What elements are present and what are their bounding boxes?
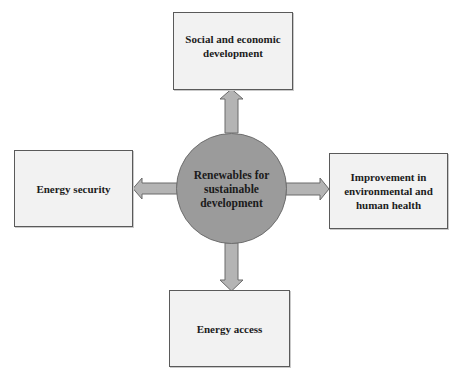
node-label-line: environmental and bbox=[344, 184, 433, 198]
node-energy-security: Energy security bbox=[14, 150, 133, 227]
hub-label: Renewables for sustainable development bbox=[194, 168, 270, 210]
node-label-line: Improvement in bbox=[344, 170, 433, 184]
node-label: Improvement in environmental and human h… bbox=[344, 170, 433, 212]
node-label-line: human health bbox=[344, 198, 433, 212]
arrow-up-icon bbox=[220, 89, 243, 133]
arrow-down-icon bbox=[220, 243, 243, 291]
diagram-canvas: Social and economic development Energy s… bbox=[0, 0, 461, 380]
arrow-left-icon bbox=[133, 178, 177, 199]
node-label-line: Social and economic bbox=[185, 32, 280, 46]
node-label: Energy access bbox=[197, 322, 263, 336]
node-label-line: Energy access bbox=[197, 322, 263, 336]
node-energy-access: Energy access bbox=[169, 290, 290, 367]
node-social-economic-development: Social and economic development bbox=[173, 12, 293, 90]
hub-label-line: sustainable bbox=[194, 182, 270, 196]
node-label-line: development bbox=[185, 46, 280, 60]
arrow-right-icon bbox=[286, 178, 329, 200]
node-environmental-human-health: Improvement in environmental and human h… bbox=[329, 153, 448, 229]
node-label: Energy security bbox=[36, 182, 110, 196]
hub-label-line: development bbox=[194, 196, 270, 210]
node-label-line: Energy security bbox=[36, 182, 110, 196]
hub-label-line: Renewables for bbox=[194, 168, 270, 182]
node-label: Social and economic development bbox=[185, 32, 280, 60]
center-hub-renewables: Renewables for sustainable development bbox=[176, 133, 287, 244]
